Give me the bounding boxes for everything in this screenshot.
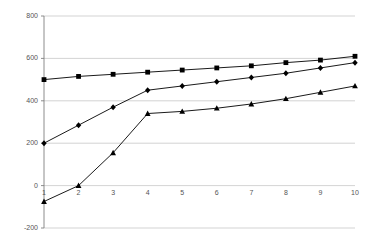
data-point-marker <box>318 65 323 71</box>
data-point-marker <box>41 140 46 146</box>
x-tick-label: 4 <box>139 189 157 197</box>
data-point-marker <box>41 199 47 204</box>
x-tick-label: 2 <box>70 189 88 197</box>
data-point-marker <box>111 72 116 77</box>
data-point-marker <box>353 54 358 59</box>
series-line <box>44 63 355 144</box>
data-point-marker <box>249 74 254 80</box>
data-point-marker <box>249 63 254 68</box>
y-tick-label: -200 <box>12 224 38 232</box>
data-point-marker <box>76 74 81 79</box>
x-tick-label: 5 <box>173 189 191 197</box>
y-tick-label: 800 <box>12 12 38 20</box>
x-tick-label: 10 <box>346 189 364 197</box>
data-point-marker <box>318 58 323 63</box>
data-point-marker <box>180 83 185 89</box>
series-line <box>44 86 355 202</box>
data-point-marker <box>76 122 81 128</box>
data-point-marker <box>110 104 115 110</box>
x-tick-label: 9 <box>311 189 329 197</box>
y-tick-label: 600 <box>12 54 38 62</box>
x-tick-label: 1 <box>35 189 53 197</box>
data-point-marker <box>352 60 357 66</box>
data-point-marker <box>145 70 150 75</box>
data-point-marker <box>352 83 358 88</box>
series-series-2 <box>41 60 357 147</box>
line-chart: -200020040060080012345678910 <box>0 0 366 242</box>
data-point-marker <box>283 70 288 76</box>
data-point-marker <box>180 68 185 73</box>
x-tick-label: 7 <box>242 189 260 197</box>
data-point-marker <box>145 87 150 93</box>
data-point-marker <box>214 79 219 85</box>
x-tick-label: 8 <box>277 189 295 197</box>
x-tick-label: 6 <box>208 189 226 197</box>
series-line <box>44 56 355 79</box>
data-point-marker <box>283 60 288 65</box>
data-point-marker <box>214 66 219 71</box>
x-tick-label: 3 <box>104 189 122 197</box>
plot-area <box>0 0 366 242</box>
data-point-marker <box>42 77 47 82</box>
y-tick-label: 400 <box>12 97 38 105</box>
y-tick-label: 200 <box>12 139 38 147</box>
